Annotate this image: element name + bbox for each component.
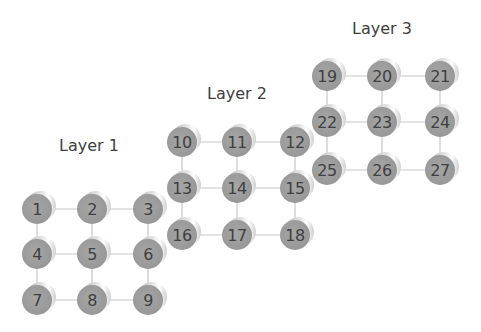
node-15: 15 — [280, 173, 310, 203]
node-label: 9 — [133, 285, 163, 315]
node-5: 5 — [77, 239, 107, 269]
layer-3-label: Layer 3 — [352, 19, 412, 38]
node-label: 21 — [425, 61, 455, 91]
node-label: 24 — [425, 107, 455, 137]
node-label: 8 — [77, 285, 107, 315]
node-label: 16 — [167, 220, 197, 250]
node-12: 12 — [280, 127, 310, 157]
node-label: 18 — [280, 220, 310, 250]
node-1: 1 — [22, 194, 52, 224]
node-11: 11 — [222, 127, 252, 157]
edges — [0, 0, 481, 332]
node-label: 25 — [312, 155, 342, 185]
node-label: 1 — [22, 194, 52, 224]
node-label: 4 — [22, 239, 52, 269]
layered-grid-diagram: Layer 1 Layer 2 Layer 3 1234567891011121… — [0, 0, 481, 332]
node-label: 26 — [367, 155, 397, 185]
node-label: 20 — [367, 61, 397, 91]
node-label: 7 — [22, 285, 52, 315]
node-10: 10 — [167, 127, 197, 157]
node-label: 6 — [133, 239, 163, 269]
node-label: 23 — [367, 107, 397, 137]
node-label: 19 — [312, 61, 342, 91]
node-label: 11 — [222, 127, 252, 157]
node-13: 13 — [167, 173, 197, 203]
node-21: 21 — [425, 61, 455, 91]
node-23: 23 — [367, 107, 397, 137]
layer-1-label: Layer 1 — [59, 136, 119, 155]
node-3: 3 — [133, 194, 163, 224]
node-label: 10 — [167, 127, 197, 157]
node-6: 6 — [133, 239, 163, 269]
node-25: 25 — [312, 155, 342, 185]
node-label: 27 — [425, 155, 455, 185]
node-label: 15 — [280, 173, 310, 203]
node-label: 17 — [222, 220, 252, 250]
node-8: 8 — [77, 285, 107, 315]
node-label: 2 — [77, 194, 107, 224]
node-2: 2 — [77, 194, 107, 224]
node-9: 9 — [133, 285, 163, 315]
node-label: 12 — [280, 127, 310, 157]
node-label: 5 — [77, 239, 107, 269]
node-24: 24 — [425, 107, 455, 137]
node-18: 18 — [280, 220, 310, 250]
node-16: 16 — [167, 220, 197, 250]
node-19: 19 — [312, 61, 342, 91]
node-17: 17 — [222, 220, 252, 250]
node-27: 27 — [425, 155, 455, 185]
node-7: 7 — [22, 285, 52, 315]
node-label: 3 — [133, 194, 163, 224]
node-label: 13 — [167, 173, 197, 203]
node-26: 26 — [367, 155, 397, 185]
layer-2-label: Layer 2 — [207, 84, 267, 103]
node-label: 14 — [222, 173, 252, 203]
node-22: 22 — [312, 107, 342, 137]
node-20: 20 — [367, 61, 397, 91]
node-label: 22 — [312, 107, 342, 137]
node-14: 14 — [222, 173, 252, 203]
node-4: 4 — [22, 239, 52, 269]
